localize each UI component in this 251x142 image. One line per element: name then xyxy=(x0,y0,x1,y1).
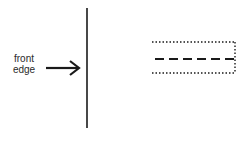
diagram-canvas xyxy=(0,0,251,142)
dotted-rectangle xyxy=(152,42,235,73)
arrow-icon xyxy=(46,61,79,75)
